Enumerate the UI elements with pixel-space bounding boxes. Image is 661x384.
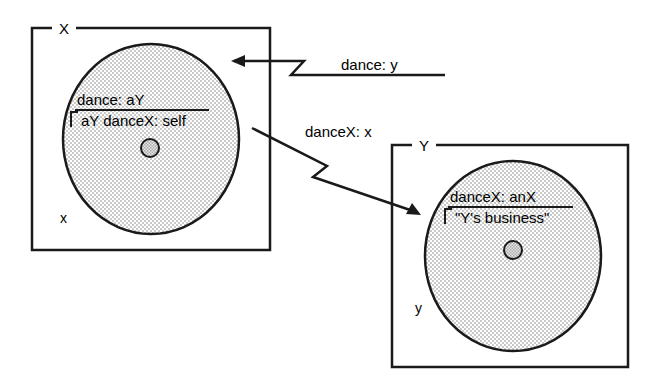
y-method-selector: danceX: anX [450, 188, 536, 205]
x-method-selector: dance: aY [77, 91, 145, 108]
x-to-y-message-label: danceX: x [305, 123, 372, 140]
x-instance-label: x [60, 210, 67, 226]
x-to-y-message-arrow [252, 128, 421, 215]
y-method-body: "Y's business" [455, 209, 549, 226]
incoming-message-arrow [231, 55, 445, 75]
y-box-label: Y [419, 137, 429, 154]
x-box-label: X [59, 20, 69, 37]
incoming-message-shaft [234, 61, 445, 75]
y-inner-dot [504, 241, 522, 259]
incoming-message-arrowhead [231, 55, 245, 67]
diagram-svg: X dance: aY aY danceX: self x Y danceX: … [0, 0, 661, 384]
x-inner-dot [141, 139, 159, 157]
diagram-canvas: X dance: aY aY danceX: self x Y danceX: … [0, 0, 661, 384]
x-method-body: aY danceX: self [81, 112, 187, 129]
y-instance-label: y [415, 300, 422, 316]
incoming-message-label: dance: y [341, 56, 398, 73]
